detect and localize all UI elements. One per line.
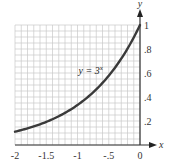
- x-tick-label: 0: [138, 150, 143, 161]
- y-tick-label: .6: [144, 68, 152, 79]
- x-tick-label: -2: [11, 150, 19, 161]
- y-axis-label: y: [137, 0, 143, 9]
- equation-exponent: x: [99, 64, 104, 72]
- exponential-chart: x y -2-1.5-1-.50 .2.4.6.81 y = 3x: [0, 0, 169, 167]
- y-tick-label: .8: [144, 44, 152, 55]
- x-axis-label: x: [158, 139, 164, 150]
- x-tick-label: -1.5: [38, 150, 54, 161]
- curve-equation-label: y = 3x: [78, 64, 104, 76]
- equation-base: y = 3: [78, 65, 100, 76]
- x-tick-label: -1: [73, 150, 81, 161]
- y-tick-label: 1: [144, 20, 149, 31]
- x-axis-arrow-icon: [149, 142, 157, 148]
- y-tick-labels: .2.4.6.81: [144, 20, 152, 127]
- x-tick-label: -.5: [103, 150, 114, 161]
- x-tick-labels: -2-1.5-1-.50: [11, 150, 143, 161]
- y-tick-label: .4: [144, 92, 152, 103]
- y-tick-label: .2: [144, 116, 152, 127]
- y-axis-arrow-icon: [137, 9, 143, 17]
